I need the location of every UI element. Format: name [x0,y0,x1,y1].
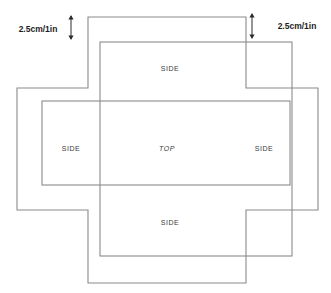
box-net-diagram: SIDE SIDE TOP SIDE SIDE 2.5cm/1in 2.5cm/… [0,0,331,293]
dimension-arrowhead-down [249,35,254,40]
face-label-side-right: SIDE [255,145,273,152]
dimension-arrowhead-up [249,13,254,18]
face-label-side-top: SIDE [161,65,179,72]
dimension-arrowhead-up [68,15,73,20]
face-label-side-left: SIDE [62,145,80,152]
dimension-label-right: 2.5cm/1in [278,21,317,31]
face-label-top: TOP [159,145,175,152]
face-label-side-bottom: SIDE [161,219,179,226]
dimension-label-left: 2.5cm/1in [19,24,58,34]
dimension-arrowhead-down [68,36,73,41]
horizontal-panel-rectangle [42,101,290,185]
